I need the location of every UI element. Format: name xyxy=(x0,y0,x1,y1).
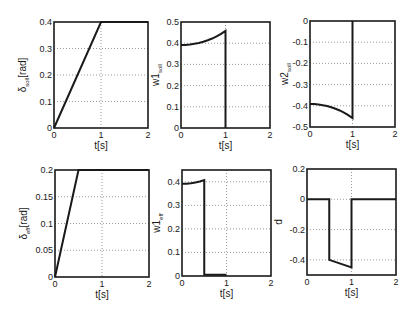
y-tick-label: -0.2 xyxy=(292,58,308,68)
x-tick-label: 0 xyxy=(179,278,184,288)
x-axis-label: t[s] xyxy=(345,287,359,298)
x-axis-label: t[s] xyxy=(95,289,109,300)
y-tick-label: 0.1 xyxy=(40,219,53,229)
y-tick-label: 0.15 xyxy=(35,192,53,202)
y-tick-label: 0.2 xyxy=(166,81,179,91)
y-tick-label: 0.05 xyxy=(35,245,53,255)
y-tick-label: -0.1 xyxy=(292,37,308,47)
x-tick-label: 1 xyxy=(99,279,104,289)
y-tick-label: 0.3 xyxy=(166,59,179,69)
y-tick-label: 0 xyxy=(175,271,180,281)
y-tick-label: -0.5 xyxy=(292,122,308,132)
y-tick-label: 0 xyxy=(300,194,305,204)
x-tick-label: 0 xyxy=(178,130,183,140)
y-tick-label: 0 xyxy=(174,123,179,133)
series-line-w1_soll xyxy=(181,31,226,128)
y-tick-label: 0.2 xyxy=(167,224,180,234)
y-axis-label: δeff[rad] xyxy=(18,207,31,239)
x-tick-label: 1 xyxy=(349,277,354,287)
y-tick-label: 0.2 xyxy=(40,165,53,175)
x-tick-label: 2 xyxy=(146,279,151,289)
x-tick-label: 0 xyxy=(52,279,57,289)
y-axis-label: δsoll[rad] xyxy=(17,57,30,92)
x-tick-label: 1 xyxy=(98,130,103,140)
x-tick-label: 2 xyxy=(392,129,397,139)
y-tick-label: 0.5 xyxy=(166,17,179,27)
y-tick-label: 0.3 xyxy=(39,44,52,54)
y-tick-label: 0.1 xyxy=(167,247,180,257)
series-line-w2_soll xyxy=(310,21,353,118)
y-tick-label: -0.2 xyxy=(289,225,305,235)
x-tick-label: 0 xyxy=(304,277,309,287)
y-tick-label: -0.4 xyxy=(292,101,308,111)
subplot-w1-eff: 01200.10.20.30.4t[s]w1eff xyxy=(151,170,274,299)
y-axis-label: w1soll xyxy=(150,64,163,87)
subplot-delta-eff: 01200.050.10.150.2t[s]δeff[rad] xyxy=(18,165,152,300)
x-tick-label: 2 xyxy=(145,130,150,140)
y-axis-label: w1eff xyxy=(151,213,164,234)
y-axis-label: w2soll xyxy=(279,63,292,86)
figure: 01200.10.20.30.4t[s]δsoll[rad]01200.10.2… xyxy=(0,0,419,313)
x-tick-label: 2 xyxy=(393,277,398,287)
series-line-w1_eff xyxy=(182,180,227,275)
y-tick-label: -0.4 xyxy=(289,255,305,265)
y-tick-label: 0.3 xyxy=(167,200,180,210)
x-axis-label: t[s] xyxy=(220,288,234,299)
subplot-w1-soll: 01200.10.20.30.40.5t[s]w1soll xyxy=(150,17,273,151)
x-tick-label: 2 xyxy=(268,278,273,288)
y-axis-label: d xyxy=(273,219,284,225)
x-tick-label: 1 xyxy=(223,130,228,140)
subplot-w2-soll: 012-0.5-0.4-0.3-0.2-0.10t[s]w2soll xyxy=(279,16,398,150)
x-tick-label: 1 xyxy=(224,278,229,288)
y-tick-label: -0.3 xyxy=(292,80,308,90)
y-tick-label: 0.2 xyxy=(39,70,52,80)
y-tick-label: 0.4 xyxy=(166,38,179,48)
y-tick-label: 0 xyxy=(47,123,52,133)
y-tick-label: 0.2 xyxy=(292,164,305,174)
y-tick-label: 0 xyxy=(48,272,53,282)
series-line-d xyxy=(307,199,396,267)
x-tick-label: 0 xyxy=(51,130,56,140)
x-tick-label: 2 xyxy=(267,130,272,140)
y-tick-label: 0 xyxy=(303,16,308,26)
x-axis-label: t[s] xyxy=(94,140,108,151)
x-tick-label: 0 xyxy=(307,129,312,139)
subplot-d: 012-0.4-0.200.2t[s]d xyxy=(273,164,399,298)
y-tick-label: 0.4 xyxy=(39,17,52,27)
y-tick-label: 0.1 xyxy=(166,102,179,112)
x-tick-label: 1 xyxy=(350,129,355,139)
x-axis-label: t[s] xyxy=(219,140,233,151)
subplot-delta-soll: 01200.10.20.30.4t[s]δsoll[rad] xyxy=(17,17,151,151)
y-tick-label: 0.1 xyxy=(39,97,52,107)
y-tick-label: 0.4 xyxy=(167,177,180,187)
x-axis-label: t[s] xyxy=(346,139,360,150)
